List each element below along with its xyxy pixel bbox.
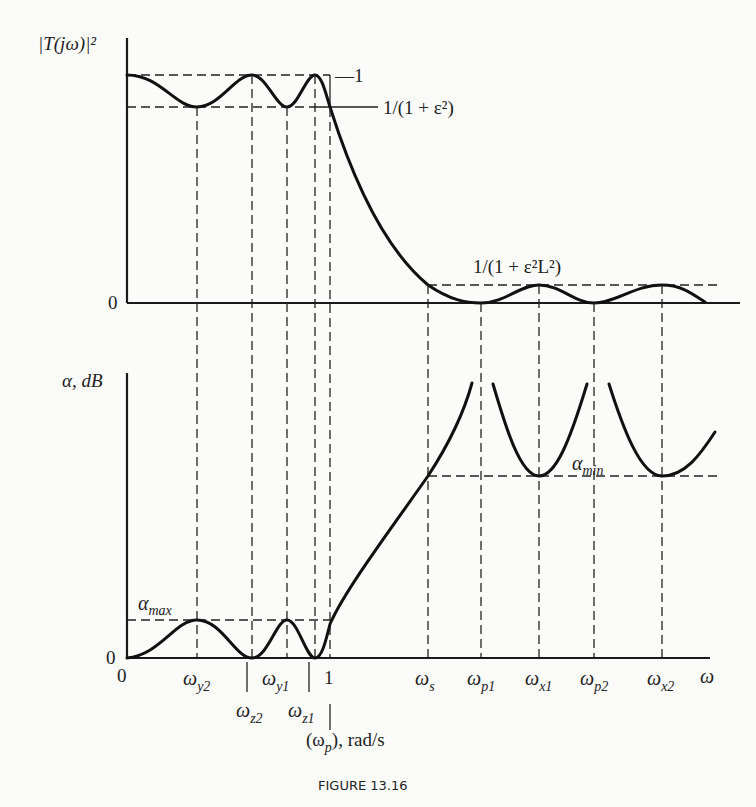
top-plot: |T(jω)|² —1 1/(1 + ε²) 1/(1 + ε²L²) 0: [38, 33, 740, 313]
passband-level-label: 1/(1 + ε²): [383, 97, 454, 119]
tick-omega-s: ωs: [415, 667, 435, 694]
tick-omega-z1: ωz1: [288, 699, 315, 726]
figure-caption: FIGURE 13.16: [318, 778, 408, 793]
elliptic-filter-figure: |T(jω)|² —1 1/(1 + ε²) 1/(1 + ε²L²) 0 α,…: [0, 0, 756, 807]
level-one-label: —1: [334, 65, 364, 86]
tick-omega-p1: ωp1: [467, 667, 495, 694]
bottom-zero-x-label: 0: [117, 665, 127, 686]
x-axis-units-label: (ωp), rad/s: [306, 729, 385, 755]
tick-omega-y1: ωy1: [262, 667, 289, 694]
bottom-ylabel: α, dB: [62, 370, 103, 391]
tick-one: 1: [324, 667, 334, 688]
alpha-min-label: αmin: [572, 452, 604, 478]
tick-omega-p2: ωp2: [580, 667, 608, 694]
bottom-zero-y-label: 0: [106, 647, 116, 668]
tick-omega-axis: ω: [700, 665, 714, 687]
top-zero-label: 0: [108, 292, 118, 313]
tick-omega-x1: ωx1: [525, 667, 552, 694]
bottom-plot: α, dB αmax αmin 0 0 ωy2 ωz2 ωy1 ωz1 1 ωs…: [62, 370, 717, 755]
alpha-max-label: αmax: [138, 592, 173, 618]
attenuation-passband-curve: [127, 383, 472, 658]
top-ylabel: |T(jω)|²: [38, 33, 96, 55]
stopband-level-label: 1/(1 + ε²L²): [473, 256, 561, 278]
tick-omega-x2: ωx2: [647, 667, 674, 694]
vertical-guides: [197, 75, 662, 658]
tick-omega-z2: ωz2: [236, 699, 263, 726]
tick-omega-y2: ωy2: [183, 667, 210, 694]
